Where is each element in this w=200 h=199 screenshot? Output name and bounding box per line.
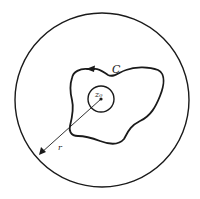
label-contour: C	[112, 63, 121, 76]
contour-arrow-icon	[86, 66, 95, 73]
diagram-canvas: C z₀ r	[0, 0, 200, 199]
label-radius: r	[58, 143, 63, 152]
label-center: z₀	[94, 90, 103, 99]
radius-arrow-icon	[39, 147, 46, 155]
contour-c	[70, 67, 164, 143]
radius-line	[41, 99, 101, 153]
